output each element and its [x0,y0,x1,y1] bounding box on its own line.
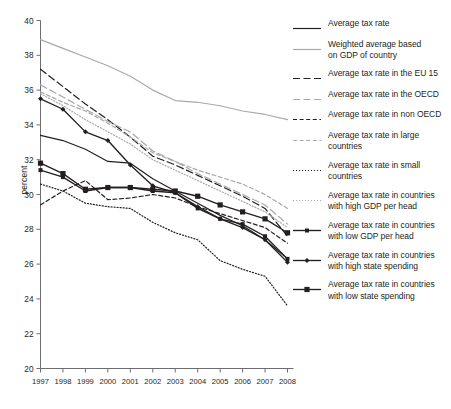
legend-item-label: Average tax rate in small countries [328,160,420,182]
legend-line-sample-icon [292,222,322,233]
legend-item[interactable]: Average tax rate in large countries [292,130,451,152]
series-0 [41,135,288,259]
data-point-marker [83,187,88,192]
y-tick-label: 28 [24,224,34,234]
x-tick-label: 2004 [189,377,206,386]
legend-item-label: Average tax rate in countries with low s… [328,279,435,301]
legend-item-label: Average tax rate in the EU 15 [328,68,438,79]
y-tick-label: 40 [24,16,34,26]
y-tick-label: 38 [24,50,34,60]
data-point-marker [60,171,65,176]
legend-item[interactable]: Weighted average based on GDP of country [292,39,451,61]
legend-item[interactable]: Average tax rate in countries with high … [292,190,451,212]
legend-line-sample-icon [292,281,322,292]
series-line [41,92,288,209]
series-3 [41,85,288,224]
y-tick-label: 20 [24,364,34,374]
legend-item-label: Average tax rate in large countries [328,130,419,152]
x-tick-label: 2001 [122,377,139,386]
legend-item[interactable]: Average tax rate in countries with low s… [292,279,451,301]
legend-line-sample-icon [292,41,322,52]
series-10 [38,161,290,236]
data-point-marker [128,185,133,190]
legend-item-label: Average tax rate in the OECD [328,89,439,100]
legend-line-sample-icon [292,192,322,203]
y-tick-label: 24 [24,294,34,304]
legend-line-sample-icon [292,132,322,143]
y-tick-label: 36 [24,85,34,95]
legend-item[interactable]: Average tax rate in non OECD [292,109,451,122]
legend-line-sample-icon [292,70,322,81]
legend-line-sample-icon [292,252,322,263]
legend-item[interactable]: Average tax rate in the OECD [292,89,451,102]
legend-item[interactable]: Average tax rate in countries with high … [292,250,451,272]
x-tick-label: 1997 [32,377,49,386]
legend-item[interactable]: Average tax rate [292,18,451,31]
data-point-marker [38,96,43,101]
x-tick-label: 2006 [234,377,251,386]
legend-line-sample-icon [292,162,322,173]
data-point-marker [285,230,290,235]
data-point-marker [105,185,110,190]
y-tick-label: 26 [24,259,34,269]
chart-figure: percent 20222426283032343638401997199819… [0,0,451,409]
legend-item[interactable]: Average tax rate in small countries [292,160,451,182]
series-9 [38,96,290,265]
legend-item-label: Weighted average based on GDP of country [328,39,421,61]
x-tick-label: 2000 [99,377,116,386]
legend-item-label: Average tax rate in countries with low G… [328,220,435,242]
y-tick-label: 32 [24,155,34,165]
x-tick-label: 2008 [279,377,296,386]
data-point-marker [39,168,43,172]
data-point-marker [240,209,245,214]
legend-item-label: Average tax rate in non OECD [328,109,441,120]
x-tick-label: 2003 [167,377,184,386]
x-tick-label: 2005 [212,377,229,386]
x-tick-label: 1998 [55,377,72,386]
series-line [41,99,288,263]
legend-line-sample-icon [292,111,322,122]
y-tick-label: 34 [24,120,34,130]
legend-item-label: Average tax rate [328,18,389,29]
y-tick-label: 30 [24,190,34,200]
legend-item-label: Average tax rate in countries with high … [328,250,435,272]
data-point-marker [150,187,155,192]
x-tick-label: 1999 [77,377,94,386]
legend-item-label: Average tax rate in countries with high … [328,190,435,212]
data-point-marker [218,202,223,207]
chart-legend: Average tax rateWeighted average based o… [292,18,451,309]
legend-item[interactable]: Average tax rate in the EU 15 [292,68,451,81]
data-point-marker [173,188,178,193]
data-point-marker [38,161,43,166]
series-line [41,135,288,259]
data-point-marker [195,194,200,199]
legend-line-sample-icon [292,20,322,31]
y-tick-label: 22 [24,329,34,339]
legend-item[interactable]: Average tax rate in countries with low G… [292,220,451,242]
series-line [41,163,288,233]
x-tick-label: 2002 [144,377,161,386]
series-line [41,85,288,224]
data-point-marker [262,216,267,221]
series-line [41,184,288,306]
legend-line-sample-icon [292,91,322,102]
series-line [41,69,288,236]
series-2 [41,69,288,236]
x-tick-label: 2007 [257,377,274,386]
series-6 [41,184,288,306]
series-5 [41,92,288,209]
